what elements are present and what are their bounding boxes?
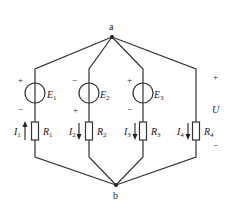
current-i3-label: I3 bbox=[123, 126, 131, 139]
source-e1-label: E1 bbox=[46, 89, 57, 102]
source-e2-minus: − bbox=[72, 75, 77, 85]
source-e3-label: E3 bbox=[153, 89, 164, 102]
resistor-r3-label: R3 bbox=[150, 126, 161, 139]
node-b-label: b bbox=[113, 190, 118, 201]
voltage-u-minus: − bbox=[213, 140, 218, 150]
resistor-r1-label: R1 bbox=[42, 126, 53, 139]
node-a-label: a bbox=[109, 21, 114, 32]
circuit-diagram: a b E1 + − R1 I1 E2 − + R2 I2 bbox=[0, 0, 230, 213]
source-e1-plus: + bbox=[18, 75, 23, 85]
current-i1-label: I1 bbox=[13, 126, 21, 139]
resistor-r4-icon bbox=[193, 122, 200, 140]
branch-3: E3 + − R3 I3 bbox=[123, 75, 164, 140]
wire-b-branch3 bbox=[116, 140, 143, 185]
current-i2-label: I2 bbox=[68, 126, 76, 139]
source-e1-minus: − bbox=[18, 104, 23, 114]
wire-b-branch2 bbox=[89, 140, 116, 185]
wire-b-branch1 bbox=[35, 140, 116, 185]
voltage-u-plus: + bbox=[213, 72, 218, 82]
source-e2-label: E2 bbox=[99, 89, 110, 102]
source-e3-minus: − bbox=[127, 104, 132, 114]
branch-4: R4 I4 bbox=[176, 122, 214, 140]
current-i4-label: I4 bbox=[176, 126, 184, 139]
source-e3-plus: + bbox=[127, 75, 132, 85]
branch-1: E1 + − R1 I1 bbox=[13, 75, 57, 140]
resistor-r2-icon bbox=[86, 122, 93, 140]
wire-b-branch4 bbox=[116, 140, 196, 185]
resistor-r2-label: R2 bbox=[96, 126, 107, 139]
resistor-r4-label: R4 bbox=[203, 126, 214, 139]
resistor-r3-icon bbox=[140, 122, 147, 140]
voltage-u-label: U bbox=[212, 104, 220, 115]
source-e2-plus: + bbox=[73, 105, 78, 115]
branch-2: E2 − + R2 I2 bbox=[68, 75, 110, 140]
resistor-r1-icon bbox=[32, 122, 39, 140]
wire-a-branch2 bbox=[89, 37, 112, 83]
